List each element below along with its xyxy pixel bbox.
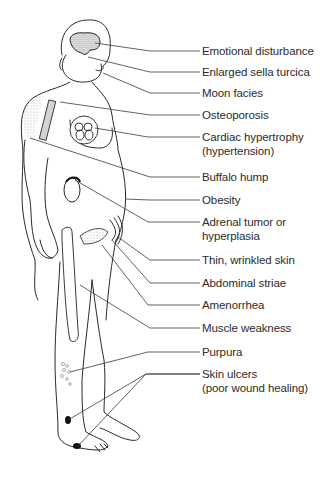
label-text: Adrenal tumor or [202,216,286,228]
label-text: Skin ulcers [202,368,257,380]
leader-line-adrenal-tumor [75,180,200,222]
leader-line-moon-facies [103,73,200,93]
leader-line-abdominal-striae [112,240,200,283]
label-amenorrhea: Amenorrhea [202,298,264,312]
spine-osteoporosis [39,100,55,141]
label-text: Osteoporosis [202,109,269,121]
brain-icon [70,33,100,55]
label-abdominal-striae: Abdominal striae [202,276,286,290]
leader-line-cardiac-hypertrophy [95,128,200,137]
leader-line-amenorrhea [102,245,200,305]
label-thin-wrinkled-skin: Thin, wrinkled skin [202,253,295,267]
label-moon-facies: Moon facies [202,86,263,100]
heart-icon [70,116,98,144]
label-text: Obesity [202,194,240,206]
leader-line-buffalo-hump [30,138,200,177]
label-osteoporosis: Osteoporosis [202,108,269,122]
label-cardiac-hypertrophy: Cardiac hypertrophy(hypertension) [202,130,304,158]
label-text: Moon facies [202,87,263,99]
label-obesity: Obesity [202,193,240,207]
label-muscle-weakness: Muscle weakness [202,321,291,335]
leader-line-purpura [70,352,200,372]
leg-left-outline [55,262,108,450]
label-text: Emotional disturbance [202,45,314,57]
label-text: Abdominal striae [202,277,286,289]
leader-line-obesity [125,199,200,200]
leader-line-skin-ulcers [68,374,200,420]
label-emotional-disturbance: Emotional disturbance [202,44,314,58]
label-text: Muscle weakness [202,322,291,334]
label-purpura: Purpura [202,345,242,359]
label-enlarged-sella-turcica: Enlarged sella turcica [202,65,310,79]
label-text-line2: hyperplasia [202,229,286,243]
label-text: Amenorrhea [202,299,264,311]
label-text-line2: (hypertension) [202,144,304,158]
label-text-line2: (poor wound healing) [202,381,308,395]
label-skin-ulcers: Skin ulcers(poor wound healing) [202,367,308,395]
leader-line-skin-ulcers [77,374,200,447]
label-text: Thin, wrinkled skin [202,254,295,266]
label-adrenal-tumor: Adrenal tumor orhyperplasia [202,215,286,243]
label-buffalo-hump: Buffalo hump [202,170,268,184]
leader-line-thin-wrinkled-skin [118,237,200,260]
label-text: Buffalo hump [202,171,268,183]
femur-bone [62,227,78,341]
uterus [80,229,108,244]
label-text: Purpura [202,346,242,358]
label-text: Enlarged sella turcica [202,66,310,78]
purpura-dots [61,362,72,385]
label-text: Cardiac hypertrophy [202,131,304,143]
leader-line-osteoporosis [60,102,200,115]
